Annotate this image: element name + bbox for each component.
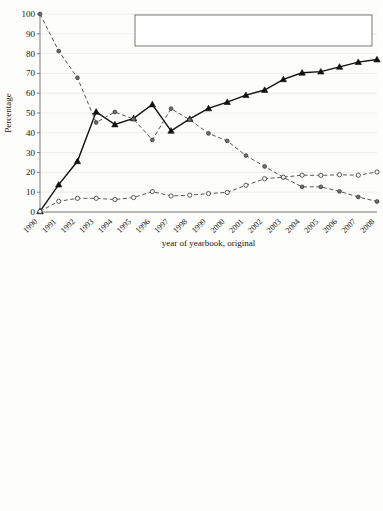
marker-circle bbox=[38, 209, 42, 213]
marker-triangle bbox=[74, 158, 80, 164]
x-tick-label: 2005 bbox=[302, 217, 320, 235]
x-tick-label: 1990 bbox=[21, 217, 39, 235]
marker-triangle bbox=[149, 101, 155, 107]
x-tick-label: 2007 bbox=[340, 217, 358, 235]
x-tick-label: 2001 bbox=[227, 217, 245, 235]
x-tick-label: 2008 bbox=[358, 217, 376, 235]
marker-circle bbox=[132, 195, 136, 199]
marker-circle bbox=[244, 183, 248, 187]
x-tick-label: 1994 bbox=[96, 217, 114, 235]
boxplot-svg bbox=[0, 252, 383, 511]
marker-dot bbox=[207, 131, 211, 135]
marker-dot bbox=[319, 185, 323, 189]
marker-circle bbox=[263, 177, 267, 181]
marker-dot bbox=[113, 110, 117, 114]
line-chart-panel: 0102030405060708090100199019911992199319… bbox=[0, 0, 383, 252]
marker-circle bbox=[206, 191, 210, 195]
marker-circle bbox=[113, 197, 117, 201]
marker-circle bbox=[225, 190, 229, 194]
marker-dot bbox=[132, 117, 136, 121]
marker-circle bbox=[356, 173, 360, 177]
marker-circle bbox=[57, 199, 61, 203]
marker-dot bbox=[76, 76, 80, 80]
y-tick-label: 70 bbox=[26, 68, 36, 78]
marker-dot bbox=[225, 139, 229, 143]
y-tick-label: 100 bbox=[22, 9, 36, 19]
marker-circle bbox=[300, 173, 304, 177]
y-tick-label: 90 bbox=[26, 29, 36, 39]
x-tick-label: 1996 bbox=[134, 217, 152, 235]
marker-dot bbox=[300, 185, 304, 189]
marker-circle bbox=[150, 190, 154, 194]
marker-dot bbox=[338, 190, 342, 194]
x-tick-label: 2006 bbox=[321, 217, 339, 235]
marker-triangle bbox=[374, 56, 380, 62]
marker-dot bbox=[263, 165, 267, 169]
marker-circle bbox=[169, 194, 173, 198]
marker-circle bbox=[75, 196, 79, 200]
marker-dot bbox=[244, 154, 248, 158]
marker-triangle bbox=[261, 87, 267, 93]
marker-circle bbox=[337, 173, 341, 177]
x-tick-label: 2002 bbox=[246, 217, 264, 235]
y-axis-title: Percentage bbox=[3, 93, 13, 132]
marker-dot bbox=[150, 138, 154, 142]
marker-triangle bbox=[93, 109, 99, 115]
marker-dot bbox=[38, 12, 42, 16]
x-tick-label: 1998 bbox=[171, 217, 189, 235]
y-tick-label: 50 bbox=[26, 108, 36, 118]
marker-circle bbox=[188, 193, 192, 197]
marker-dot bbox=[188, 118, 192, 122]
figure-page: 0102030405060708090100199019911992199319… bbox=[0, 0, 383, 511]
marker-circle bbox=[94, 196, 98, 200]
marker-dot bbox=[375, 200, 379, 204]
x-tick-label: 1999 bbox=[190, 217, 208, 235]
x-tick-label: 1991 bbox=[40, 217, 58, 235]
y-tick-label: 40 bbox=[26, 128, 36, 138]
x-tick-label: 2004 bbox=[284, 217, 302, 235]
x-tick-label: 1992 bbox=[59, 217, 77, 235]
marker-circle bbox=[281, 175, 285, 179]
y-tick-label: 80 bbox=[26, 49, 36, 59]
marker-dot bbox=[94, 121, 98, 125]
x-axis-title: year of yearbook, original bbox=[162, 238, 256, 248]
y-tick-label: 0 bbox=[31, 207, 36, 217]
x-tick-label: 2003 bbox=[265, 217, 283, 235]
x-tick-label: 2000 bbox=[209, 217, 227, 235]
marker-dot bbox=[356, 195, 360, 199]
x-tick-label: 1995 bbox=[115, 217, 133, 235]
x-tick-label: 1997 bbox=[153, 217, 171, 235]
legend-box bbox=[135, 15, 372, 46]
marker-dot bbox=[169, 107, 173, 111]
y-tick-label: 60 bbox=[26, 88, 36, 98]
marker-circle bbox=[319, 173, 323, 177]
y-tick-label: 10 bbox=[26, 187, 36, 197]
line-chart-svg: 0102030405060708090100199019911992199319… bbox=[0, 0, 383, 252]
y-tick-label: 30 bbox=[26, 148, 36, 158]
x-tick-label: 1993 bbox=[78, 217, 96, 235]
marker-dot bbox=[57, 49, 61, 53]
y-tick-label: 20 bbox=[26, 167, 36, 177]
marker-circle bbox=[375, 170, 379, 174]
boxplot-panel bbox=[0, 252, 383, 511]
